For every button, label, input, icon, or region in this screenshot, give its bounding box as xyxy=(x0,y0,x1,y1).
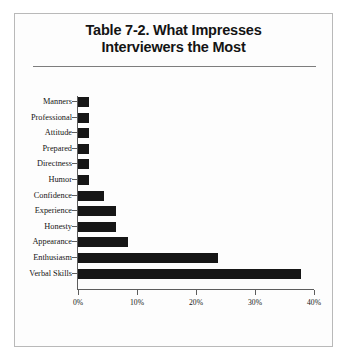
bar-row: Directness xyxy=(15,158,332,174)
bar-row: Appearance xyxy=(15,236,332,252)
x-axis-tick xyxy=(78,290,79,295)
bar-row: Prepared xyxy=(15,143,332,159)
x-axis-tick xyxy=(314,290,315,295)
x-axis-tick-label: 40% xyxy=(294,298,334,307)
bar xyxy=(78,159,89,169)
bar-row: Enthusiasm xyxy=(15,252,332,268)
chart-figure: Table 7-2. What Impresses Interviewers t… xyxy=(14,13,333,347)
bar-row: Confidence xyxy=(15,190,332,206)
category-label: Professional xyxy=(0,112,72,123)
bar xyxy=(78,237,128,247)
x-axis-tick xyxy=(196,290,197,295)
category-label: Experience xyxy=(0,205,72,216)
bar xyxy=(78,128,89,138)
bar-row: Attitude xyxy=(15,127,332,143)
bar-row: Honesty xyxy=(15,221,332,237)
bar xyxy=(78,191,104,201)
bar xyxy=(78,144,89,154)
category-label: Directness xyxy=(0,158,72,169)
bar xyxy=(78,113,89,123)
category-label: Appearance xyxy=(0,236,72,247)
category-label: Enthusiasm xyxy=(0,252,72,263)
category-label: Honesty xyxy=(0,221,72,232)
bar xyxy=(78,253,218,263)
bar-row: Professional xyxy=(15,112,332,128)
bar xyxy=(78,97,89,107)
x-axis-tick-label: 10% xyxy=(117,298,157,307)
x-axis-tick-label: 20% xyxy=(176,298,216,307)
bar-row: Manners xyxy=(15,96,332,112)
bar xyxy=(78,175,89,185)
bar xyxy=(78,206,116,216)
x-axis-tick-label: 30% xyxy=(235,298,275,307)
bar-row: Humor xyxy=(15,174,332,190)
category-label: Confidence xyxy=(0,190,72,201)
category-label: Prepared xyxy=(0,143,72,154)
bar xyxy=(78,222,116,232)
bar xyxy=(78,269,301,279)
bar-row: Experience xyxy=(15,205,332,221)
category-label: Verbal Skills xyxy=(0,268,72,279)
x-axis-tick-label: 0% xyxy=(58,298,98,307)
category-label: Attitude xyxy=(0,127,72,138)
plot-area: MannersProfessionalAttitudePreparedDirec… xyxy=(15,14,332,346)
x-axis-tick xyxy=(255,290,256,295)
category-label: Humor xyxy=(0,174,72,185)
x-axis-tick xyxy=(137,290,138,295)
category-label: Manners xyxy=(0,96,72,107)
bar-rows: MannersProfessionalAttitudePreparedDirec… xyxy=(15,96,332,283)
bar-row: Verbal Skills xyxy=(15,268,332,284)
